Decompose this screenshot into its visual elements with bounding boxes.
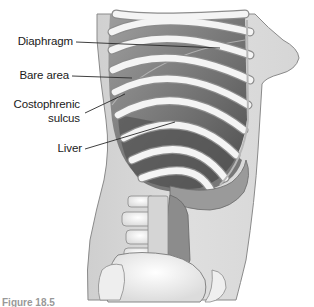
pelvis-rim <box>98 264 124 300</box>
label-sulcus: sulcus <box>2 112 80 125</box>
label-bare-area: Bare area <box>4 69 69 82</box>
anatomy-figure: Diaphragm Bare area Costophrenic sulcus … <box>0 0 314 307</box>
label-diaphragm: Diaphragm <box>4 35 73 48</box>
label-costophrenic: Costophrenic <box>2 98 80 111</box>
figure-caption: Figure 18.5 <box>2 297 55 307</box>
label-liver: Liver <box>4 142 82 155</box>
